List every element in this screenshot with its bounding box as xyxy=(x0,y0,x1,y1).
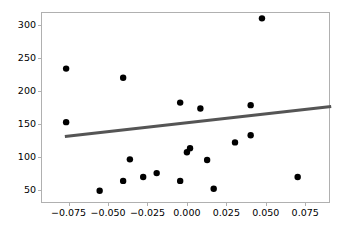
x-tick-label: −0.075 xyxy=(51,208,86,218)
data-point xyxy=(210,186,216,192)
scatter-plot-figure: 50100150200250300 −0.075−0.050−0.0250.00… xyxy=(0,0,347,236)
data-point xyxy=(187,145,193,151)
y-tick-label: 150 xyxy=(18,119,36,129)
plot-canvas xyxy=(42,13,329,202)
regression-trendline xyxy=(65,106,331,136)
x-tick-mark xyxy=(187,203,188,206)
y-axis-tick-labels: 50100150200250300 xyxy=(0,0,36,236)
x-tick-mark xyxy=(108,203,109,206)
data-point xyxy=(63,119,69,125)
data-point xyxy=(294,174,300,180)
data-point xyxy=(127,156,133,162)
data-point xyxy=(96,188,102,194)
data-point xyxy=(247,102,253,108)
data-point xyxy=(204,157,210,163)
x-tick-mark xyxy=(305,203,306,206)
x-tick-label: −0.025 xyxy=(130,208,165,218)
x-tick-mark xyxy=(147,203,148,206)
x-tick-mark xyxy=(69,203,70,206)
y-tick-label: 300 xyxy=(18,20,36,30)
data-point xyxy=(247,132,253,138)
data-point xyxy=(177,178,183,184)
data-point xyxy=(140,174,146,180)
y-tick-label: 50 xyxy=(24,185,36,195)
x-tick-mark xyxy=(226,203,227,206)
x-tick-label: 0.050 xyxy=(252,208,279,218)
x-tick-label: 0.075 xyxy=(292,208,319,218)
data-point xyxy=(120,178,126,184)
data-point xyxy=(259,15,265,21)
data-point xyxy=(232,139,238,145)
data-point xyxy=(120,75,126,81)
data-point xyxy=(177,99,183,105)
data-point xyxy=(153,170,159,176)
y-tick-label: 250 xyxy=(18,53,36,63)
x-axis-tick-labels: −0.075−0.050−0.0250.0000.0250.0500.075 xyxy=(0,208,347,224)
data-point xyxy=(63,65,69,71)
y-tick-label: 200 xyxy=(18,86,36,96)
x-tick-mark xyxy=(266,203,267,206)
y-tick-label: 100 xyxy=(18,152,36,162)
data-point xyxy=(197,105,203,111)
x-tick-label: −0.050 xyxy=(90,208,125,218)
x-tick-label: 0.025 xyxy=(213,208,240,218)
plot-axes-area xyxy=(41,12,330,203)
x-tick-label: 0.000 xyxy=(173,208,200,218)
